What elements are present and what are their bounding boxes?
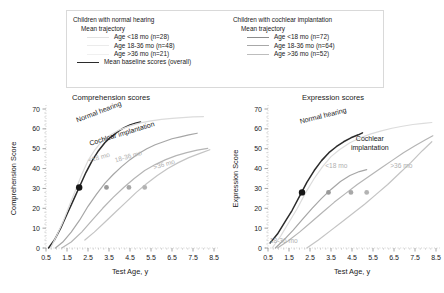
- y-tick-label: 0: [36, 245, 40, 252]
- curve-annotation-1: Cochlear implantation: [89, 120, 156, 147]
- legend-heading-normal-hearing: Children with normal hearing: [73, 16, 225, 25]
- x-tick-label: 5.5: [368, 254, 378, 261]
- curve-annotation-2: <18 mo: [87, 151, 111, 164]
- chart-plot-comprehension: 0102030405060700.51.52.53.54.55.56.57.58…: [0, 92, 222, 293]
- y-tick-label: 10: [32, 225, 40, 232]
- x-tick-label: 7.5: [188, 254, 198, 261]
- legend-item-normal-2: Age >36 mo (n=21): [73, 50, 225, 58]
- figure-legend: Children with normal hearing Mean trajec…: [66, 10, 384, 88]
- x-tick-label: 8.5: [431, 254, 441, 261]
- legend-swatch-implant-0: [247, 37, 269, 38]
- series-marker-2: [104, 185, 109, 190]
- legend-swatch-normal-0: [87, 37, 109, 38]
- x-tick-label: 1.5: [62, 254, 72, 261]
- y-tick-label: 70: [254, 106, 262, 113]
- y-tick-label: 50: [32, 145, 40, 152]
- y-tick-label: 60: [254, 125, 262, 132]
- y-tick-label: 70: [32, 106, 40, 113]
- legend-subheading-implantation: Mean trajectory: [233, 25, 377, 34]
- legend-column-cochlear-implantation: Children with cochlear implantation Mean…: [225, 16, 377, 67]
- y-tick-label: 50: [254, 145, 262, 152]
- legend-swatch-implant-1: [247, 45, 269, 46]
- y-tick-label: 30: [254, 185, 262, 192]
- legend-column-normal-hearing: Children with normal hearing Mean trajec…: [73, 16, 225, 67]
- y-axis-title: Comprehension Score: [9, 142, 18, 216]
- x-tick-label: 0.5: [263, 254, 273, 261]
- curve-annotation-5: 18-36 mo: [270, 237, 298, 244]
- legend-item-normal-0: Age <18 mo (n=28): [73, 33, 225, 41]
- x-tick-label: 7.5: [410, 254, 420, 261]
- y-tick-label: 0: [258, 245, 262, 252]
- y-tick-label: 30: [32, 185, 40, 192]
- x-tick-label: 3.5: [326, 254, 336, 261]
- x-tick-label: 6.5: [167, 254, 177, 261]
- curve-annotation-0: Normal hearing: [299, 106, 347, 125]
- curve-annotation-1: Cochlear: [356, 135, 385, 142]
- charts-container: Comprehension scores 0102030405060700.51…: [0, 92, 444, 293]
- legend-heading-implantation: Children with cochlear implantation: [233, 16, 377, 25]
- curve-annotation-3: <18 mo: [325, 162, 348, 169]
- x-tick-label: 5.5: [146, 254, 156, 261]
- legend-label-implant-0: Age <18 mo (n=72): [274, 33, 329, 41]
- x-tick-label: 2.5: [83, 254, 93, 261]
- x-tick-label: 4.5: [125, 254, 135, 261]
- x-axis-title: Test Age, y: [334, 267, 370, 276]
- series-marker-3: [349, 190, 354, 195]
- curve-annotation-0: Normal hearing: [75, 100, 123, 125]
- series-marker-0: [76, 184, 82, 190]
- curve-annotation-4: >36 mo: [390, 162, 413, 169]
- series-marker-0: [299, 189, 305, 195]
- curve-annotation-2: implantation: [351, 144, 389, 152]
- legend-label-baseline: Mean baseline scores (overall): [104, 58, 191, 66]
- series-marker-2: [326, 190, 331, 195]
- x-tick-label: 4.5: [347, 254, 357, 261]
- x-axis-title: Test Age, y: [112, 267, 148, 276]
- legend-swatch-implant-2: [247, 54, 269, 55]
- legend-label-implant-2: Age >36 mo (n=52): [274, 50, 329, 58]
- y-tick-label: 20: [254, 205, 262, 212]
- x-tick-label: 0.5: [41, 254, 51, 261]
- y-tick-label: 40: [254, 165, 262, 172]
- y-tick-label: 40: [32, 165, 40, 172]
- x-tick-label: 2.5: [305, 254, 315, 261]
- legend-item-implant-0: Age <18 mo (n=72): [233, 33, 377, 41]
- series-line-3: [62, 148, 208, 248]
- y-tick-label: 10: [254, 225, 262, 232]
- y-tick-label: 60: [32, 125, 40, 132]
- series-line-2: [55, 133, 197, 248]
- x-tick-label: 8.5: [209, 254, 219, 261]
- series-marker-4: [142, 185, 147, 190]
- legend-label-normal-1: Age 18-36 mo (n=48): [114, 42, 175, 50]
- legend-label-implant-1: Age 18-36 mo (n=64): [274, 42, 335, 50]
- y-tick-label: 20: [32, 205, 40, 212]
- chart-expression: Expression scores 0102030405060700.51.52…: [222, 92, 444, 293]
- x-tick-label: 1.5: [284, 254, 294, 261]
- legend-swatch-baseline: [77, 62, 99, 63]
- series-line-0: [270, 133, 362, 243]
- legend-label-normal-0: Age <18 mo (n=28): [114, 33, 169, 41]
- chart-comprehension: Comprehension scores 0102030405060700.51…: [0, 92, 222, 293]
- legend-swatch-normal-2: [87, 54, 109, 55]
- curve-annotation-4: >36 mo: [152, 158, 176, 171]
- chart-plot-expression: 0102030405060700.51.52.53.54.55.56.57.58…: [222, 92, 444, 293]
- legend-item-implant-1: Age 18-36 mo (n=64): [233, 42, 377, 50]
- series-line-1: [272, 123, 432, 249]
- legend-item-implant-2: Age >36 mo (n=52): [233, 50, 377, 58]
- series-marker-3: [127, 185, 132, 190]
- legend-item-baseline: Mean baseline scores (overall): [73, 58, 225, 66]
- series-marker-4: [364, 190, 369, 195]
- series-line-4: [85, 150, 210, 240]
- legend-item-normal-1: Age 18-36 mo (n=48): [73, 42, 225, 50]
- x-tick-label: 6.5: [389, 254, 399, 261]
- x-tick-label: 3.5: [104, 254, 114, 261]
- legend-subheading-normal-hearing: Mean trajectory: [73, 25, 225, 34]
- y-axis-title: Expression Score: [231, 150, 240, 208]
- legend-label-normal-2: Age >36 mo (n=21): [114, 50, 169, 58]
- legend-swatch-normal-1: [87, 45, 109, 46]
